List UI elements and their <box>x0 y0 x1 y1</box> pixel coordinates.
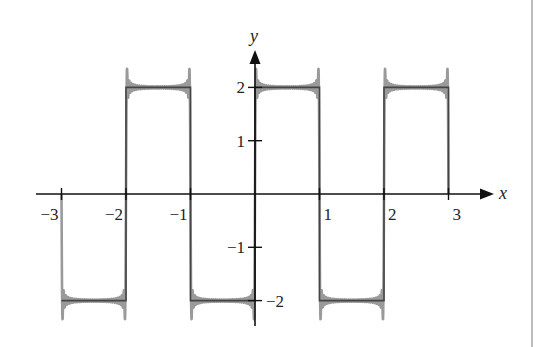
x-tick-label: −3 <box>40 205 58 224</box>
x-tick-label: 1 <box>324 205 333 224</box>
y-axis-label: y <box>248 26 258 46</box>
panel-border <box>531 0 533 347</box>
y-tick-label: 2 <box>237 78 246 97</box>
x-tick-label: 3 <box>453 205 462 224</box>
square-wave-figure: −3−2−1123 21−1−2 x y <box>0 0 542 347</box>
y-tick-label: 1 <box>237 132 246 151</box>
y-axis-arrow-icon <box>250 50 261 64</box>
x-tick-label: −2 <box>105 205 123 224</box>
x-axis-arrow-icon <box>480 189 494 200</box>
y-tick-label: −1 <box>227 238 245 257</box>
x-tick-label: −1 <box>169 205 187 224</box>
y-tick-label: −2 <box>266 292 284 311</box>
chart-canvas: −3−2−1123 21−1−2 x y <box>0 0 542 347</box>
axes: −3−2−1123 21−1−2 x y <box>36 26 507 326</box>
x-tick-label: 2 <box>388 205 397 224</box>
x-axis-label: x <box>498 183 507 203</box>
